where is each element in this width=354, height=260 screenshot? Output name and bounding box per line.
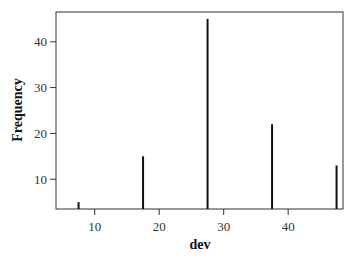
x-tick-label: 20 — [153, 219, 166, 234]
x-tick-label: 30 — [217, 219, 230, 234]
y-tick-label: 40 — [34, 34, 47, 49]
y-axis: 10203040 — [34, 34, 56, 186]
x-tick-label: 40 — [282, 219, 295, 234]
y-tick-label: 10 — [34, 172, 47, 187]
y-tick-label: 20 — [34, 126, 47, 141]
y-axis-title: Frequency — [10, 78, 25, 142]
bars — [79, 19, 337, 209]
y-tick-label: 30 — [34, 80, 47, 95]
histogram-chart: 10203040 10203040 dev Frequency — [0, 0, 354, 260]
x-tick-label: 10 — [88, 219, 101, 234]
plot-frame — [56, 12, 343, 209]
x-axis-title: dev — [190, 237, 211, 252]
x-axis: 10203040 — [88, 209, 294, 234]
